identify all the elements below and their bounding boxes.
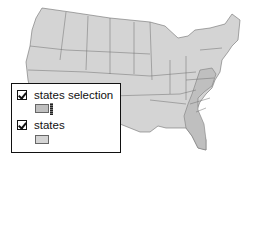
legend-row-states-selection: states selection <box>17 89 113 101</box>
states-visibility-checkbox[interactable] <box>17 120 27 130</box>
legend-label: states <box>34 119 65 131</box>
legend-row-states: states <box>17 119 65 131</box>
legend-label: states selection <box>34 89 113 101</box>
selection-hatch-icon <box>50 103 53 115</box>
states-selection-visibility-checkbox[interactable] <box>17 90 27 100</box>
map-legend: states selection states <box>11 83 121 153</box>
states-swatch <box>35 135 49 144</box>
states-selection-swatch <box>35 104 49 113</box>
